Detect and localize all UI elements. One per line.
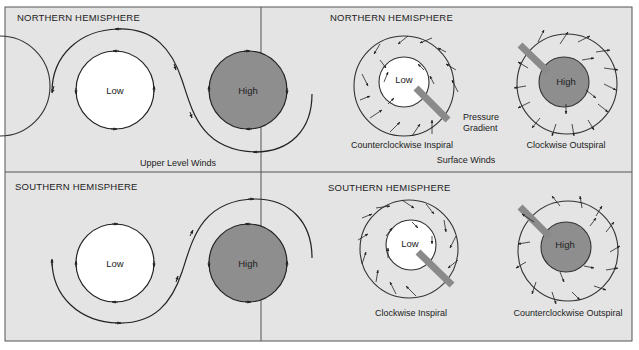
- high-caption: Clockwise Outspiral: [526, 140, 605, 150]
- wind-circulation-diagram: NORTHERN HEMISPHERE Low High Upper Level…: [0, 0, 639, 350]
- caption: Surface Winds: [437, 155, 496, 165]
- gradient-label: Gradient: [463, 123, 498, 133]
- low-label: Low: [106, 258, 124, 269]
- high-label: High: [555, 239, 575, 250]
- high-label: High: [238, 85, 258, 96]
- panel-title: NORTHERN HEMISPHERE: [330, 12, 453, 23]
- panel-title: NORTHERN HEMISPHERE: [17, 12, 140, 23]
- panel-title: SOUTHERN HEMISPHERE: [15, 181, 138, 192]
- gradient-label: Pressure: [463, 112, 499, 122]
- low-caption: Clockwise Inspiral: [375, 308, 447, 318]
- high-label: High: [556, 76, 576, 87]
- caption: Upper Level Winds: [140, 158, 217, 168]
- low-label: Low: [395, 74, 413, 85]
- high-label: High: [238, 258, 258, 269]
- low-label: Low: [106, 85, 124, 96]
- high-caption: Counterclockwise Outspiral: [513, 308, 622, 318]
- low-label: Low: [401, 238, 419, 249]
- panel-title: SOUTHERN HEMISPHERE: [328, 182, 451, 193]
- low-caption: Counterclockwise Inspiral: [351, 140, 453, 150]
